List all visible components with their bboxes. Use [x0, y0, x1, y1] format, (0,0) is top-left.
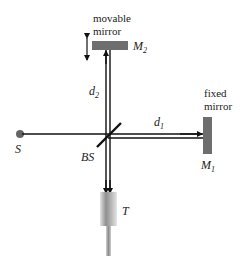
telescope-stem — [106, 226, 111, 256]
m2-label: M2 — [132, 39, 147, 55]
beam-splitter-label: BS — [81, 150, 94, 164]
source-label: S — [15, 142, 21, 156]
interferometer-diagram: S BS movable mirror M2 fixed mirror M1 d… — [0, 0, 248, 258]
movable-mirror-label-2: mirror — [93, 25, 121, 37]
beam-splitter — [97, 123, 121, 147]
movable-mirror-m2 — [92, 41, 128, 50]
fixed-mirror-label-1: fixed — [204, 87, 227, 99]
d1-label: d1 — [154, 115, 164, 131]
d2-label: d2 — [89, 84, 99, 100]
movable-mirror-label-1: movable — [93, 12, 131, 24]
telescope-label: T — [122, 204, 130, 218]
m1-label: M1 — [200, 158, 215, 174]
fixed-mirror-m1 — [203, 117, 212, 154]
fixed-mirror-label-2: mirror — [204, 100, 232, 112]
telescope-tube — [100, 192, 117, 226]
